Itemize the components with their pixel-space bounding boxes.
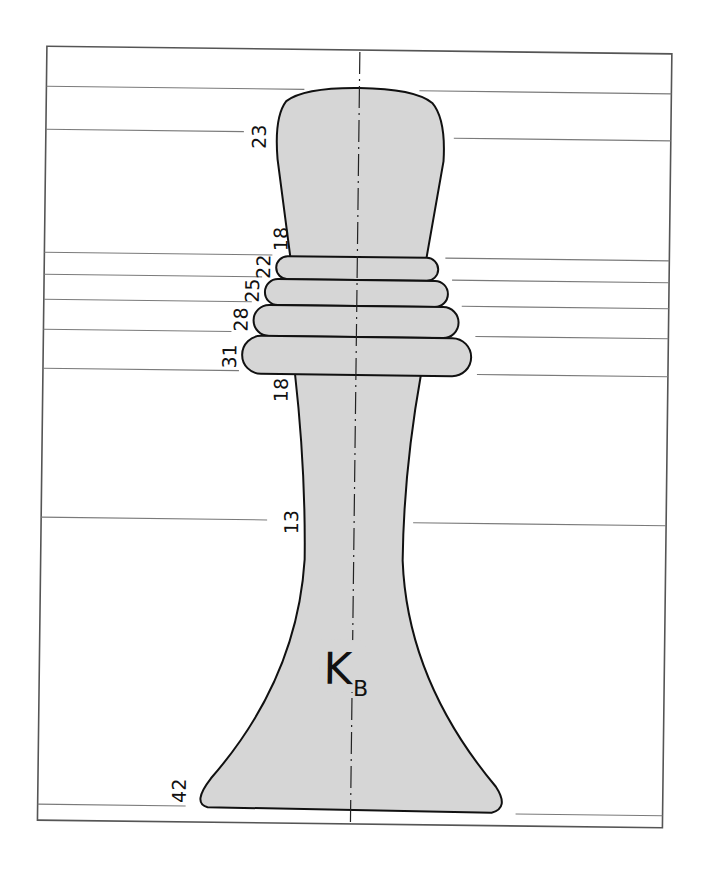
guide-lines-right (410, 91, 672, 816)
dim-ring-4: 31 (218, 344, 240, 368)
knob-profile-drawing: K B 23 18 22 25 28 31 18 13 42 (0, 0, 704, 895)
dim-base: 42 (168, 779, 190, 803)
dim-stem-waist: 13 (280, 510, 302, 534)
stem-base (200, 372, 507, 813)
guide-lines-left (38, 86, 305, 807)
top-body (275, 87, 444, 259)
dim-top-body: 23 (248, 124, 270, 148)
part-label: K (323, 643, 354, 694)
dim-ring-3: 28 (229, 307, 251, 331)
dim-neck-top: 18 (269, 227, 291, 251)
part-label-subscript: B (353, 676, 368, 701)
dim-stem-top: 18 (270, 378, 292, 402)
dim-ring-2: 25 (241, 278, 263, 302)
knob-profile (200, 86, 510, 813)
dim-ring-1: 22 (252, 255, 274, 279)
